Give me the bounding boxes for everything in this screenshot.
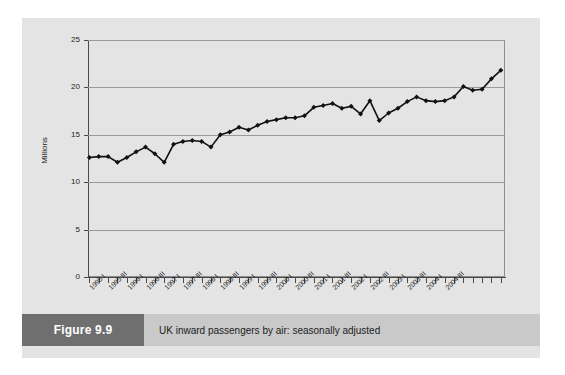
data-point-marker: [470, 88, 475, 93]
data-point-marker: [283, 115, 288, 120]
data-point-marker: [433, 99, 438, 104]
figure-title-label: UK inward passengers by air: seasonally …: [144, 325, 380, 336]
figure-number-label: Figure 9.9: [54, 323, 113, 337]
data-point-marker: [180, 139, 185, 144]
data-point-marker: [293, 115, 298, 120]
data-point-marker: [87, 155, 92, 160]
data-point-marker: [321, 103, 326, 108]
x-axis-tick-mark: [370, 278, 371, 283]
figure-title-block: UK inward passengers by air: seasonally …: [144, 314, 540, 346]
x-axis-tick-mark: [202, 278, 203, 283]
x-axis-tick-mark: [473, 278, 474, 283]
x-axis-tick-mark: [258, 278, 259, 283]
data-point-marker: [423, 98, 428, 103]
x-axis-tick-mark: [482, 278, 483, 283]
y-axis-tick-label: 20: [54, 83, 80, 91]
figure-panel: Millions 0510152025 1995 I1995 III1996 I…: [22, 18, 540, 358]
x-axis-tick-mark: [314, 278, 315, 283]
y-axis-tick-mark: [84, 277, 88, 278]
data-point-marker: [442, 98, 447, 103]
figure-number-block: Figure 9.9: [22, 314, 144, 346]
x-axis-tick-mark: [389, 278, 390, 283]
x-axis-tick-mark: [127, 278, 128, 283]
y-axis-title: Millions: [40, 121, 49, 181]
y-axis-tick-label: 5: [54, 226, 80, 234]
y-axis-tick-label: 0: [54, 273, 80, 281]
x-axis-tick-mark: [501, 278, 502, 283]
chart-plot-region: Millions 0510152025 1995 I1995 III1996 I…: [22, 18, 540, 313]
data-series-line: [88, 40, 505, 277]
y-axis-tick-label: 15: [54, 131, 80, 139]
y-axis-tick-label: 10: [54, 178, 80, 186]
x-axis-tick-mark: [183, 278, 184, 283]
data-point-marker: [190, 138, 195, 143]
data-point-marker: [274, 117, 279, 122]
x-axis-tick-mark: [445, 278, 446, 283]
y-axis-tick-label: 25: [54, 36, 80, 44]
x-axis-tick-mark: [491, 278, 492, 283]
x-axis-tick-mark: [146, 278, 147, 283]
data-point-marker: [96, 154, 101, 159]
figure-caption-bar: Figure 9.9 UK inward passengers by air: …: [22, 314, 540, 346]
data-point-marker: [265, 119, 270, 124]
x-axis-tick-mark: [463, 278, 464, 283]
